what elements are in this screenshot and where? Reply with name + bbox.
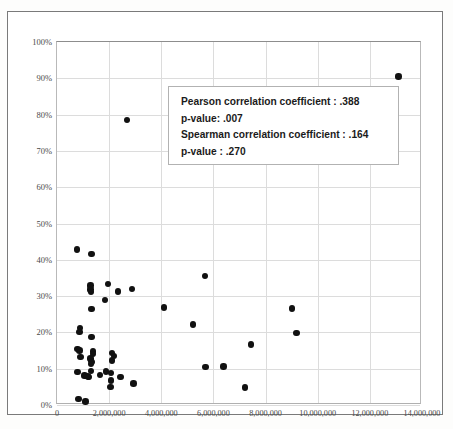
x-tick-label: 8,000,000 — [249, 409, 282, 418]
gridline-horizontal — [57, 296, 420, 297]
scatter-point — [248, 341, 254, 347]
scatter-point — [190, 321, 196, 327]
scatter-point — [108, 370, 114, 376]
scatter-point — [289, 305, 295, 311]
gridline-horizontal — [57, 78, 420, 79]
x-tick-label: 6,000,000 — [197, 409, 230, 418]
scatter-point — [105, 281, 111, 287]
scatter-point — [88, 334, 94, 340]
scatter-point — [88, 251, 94, 257]
scatter-point — [107, 384, 113, 390]
y-tick-label: 90% — [36, 73, 52, 83]
x-tick-label: 0 — [55, 409, 59, 418]
scatter-point — [82, 398, 88, 404]
y-tick-label: 20% — [36, 327, 52, 337]
scatter-point — [117, 374, 123, 380]
x-tick-label: 2,000,000 — [93, 409, 126, 418]
gridline-vertical — [109, 42, 110, 403]
scatter-point — [202, 273, 208, 279]
scatter-point — [130, 380, 136, 386]
y-tick-label: 40% — [36, 255, 52, 265]
scatter-point — [88, 289, 94, 295]
y-tick-label: 30% — [36, 291, 52, 301]
scatter-point — [109, 357, 115, 363]
x-tick-label: 4,000,000 — [145, 409, 178, 418]
gridline-horizontal — [57, 332, 420, 333]
scatter-point — [74, 369, 80, 375]
scatter-point — [129, 286, 135, 292]
scatter-point — [77, 354, 83, 360]
scatter-point — [88, 306, 94, 312]
scatter-point — [242, 384, 248, 390]
y-tick-label: 70% — [36, 146, 52, 156]
y-tick-label: 80% — [36, 110, 52, 120]
gridline-horizontal — [57, 405, 420, 406]
scatter-point — [115, 288, 121, 294]
scatter-point — [395, 73, 401, 79]
scatter-point — [108, 377, 114, 383]
spearman-pvalue-line: p-value : .270 — [181, 144, 398, 161]
scatter-point — [124, 117, 130, 123]
chart-frame: 0%10%20%30%40%50%60%70%80%90%100% 02,000… — [7, 11, 443, 415]
gridline-horizontal — [57, 224, 420, 225]
scatter-point — [102, 297, 108, 303]
x-tick-label: 12,000,000 — [351, 409, 388, 418]
scatter-point — [220, 363, 226, 369]
pearson-coefficient-line: Pearson correlation coefficient : .388 — [181, 94, 398, 111]
scatter-point — [76, 347, 82, 353]
y-tick-label: 100% — [32, 37, 52, 47]
y-tick-label: 60% — [36, 182, 52, 192]
gridline-horizontal — [57, 187, 420, 188]
x-tick-label: 14,000,000 — [404, 409, 441, 418]
y-tick-label: 50% — [36, 219, 52, 229]
statistics-annotation-box: Pearson correlation coefficient : .388 p… — [168, 86, 399, 165]
scatter-point — [75, 396, 81, 402]
spearman-coefficient-line: Spearman correlation coefficient : .164 — [181, 127, 398, 144]
y-tick-label: 0% — [41, 400, 52, 410]
scatter-point — [88, 361, 94, 367]
scatter-point — [74, 246, 80, 252]
scatter-point — [293, 330, 299, 336]
scatter-point — [97, 372, 103, 378]
y-tick-label: 10% — [36, 364, 52, 374]
chart-page: 0%10%20%30%40%50%60%70%80%90%100% 02,000… — [0, 0, 453, 429]
scatter-point — [76, 329, 82, 335]
scatter-point — [161, 304, 167, 310]
pearson-pvalue-line: p-value: .007 — [181, 111, 398, 128]
scatter-point — [86, 374, 92, 380]
gridline-horizontal — [57, 260, 420, 261]
x-tick-label: 10,000,000 — [299, 409, 336, 418]
gridline-vertical — [161, 42, 162, 403]
